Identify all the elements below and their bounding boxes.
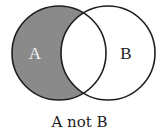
venn-diagram: A B xyxy=(0,0,159,112)
diagram-caption: A not B xyxy=(0,113,159,131)
set-a-label: A xyxy=(29,44,42,63)
set-b-label: B xyxy=(120,44,131,63)
